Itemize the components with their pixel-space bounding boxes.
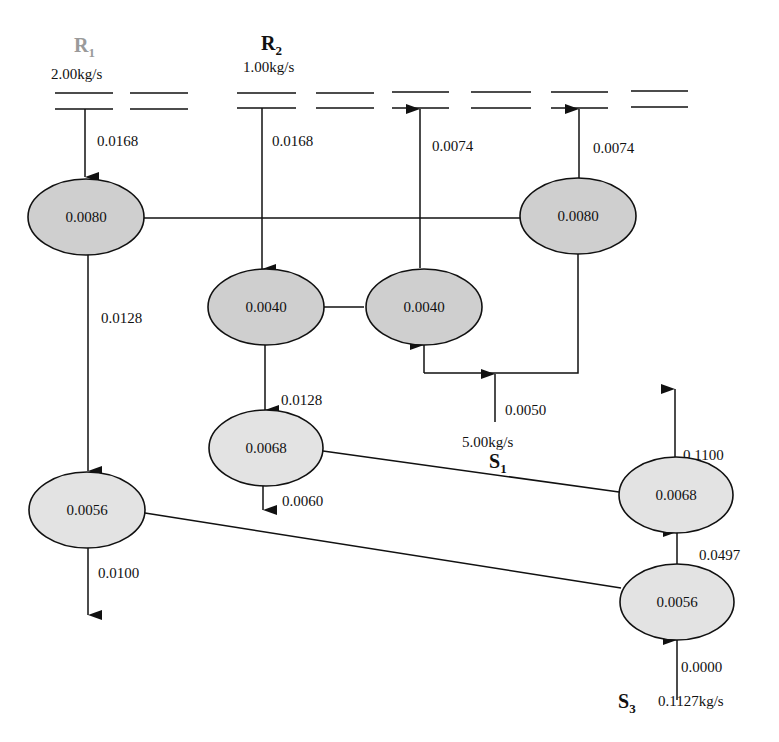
flow-label-n3-n5: 0.0128 xyxy=(281,392,322,408)
svg-text:0.0040: 0.0040 xyxy=(245,299,286,315)
node-n5[interactable]: 0.0068 xyxy=(209,410,323,486)
node-n7[interactable]: 0.0068 xyxy=(619,457,733,533)
svg-text:0.0056: 0.0056 xyxy=(66,502,108,518)
source-s3-flow: 0.1127kg/s xyxy=(658,693,724,709)
flow-label-n6-out: 0.0100 xyxy=(98,565,139,581)
flow-label-n2-header: 0.0074 xyxy=(593,140,635,156)
link-n5-n7 xyxy=(323,451,619,492)
node-n1[interactable]: 0.0080 xyxy=(28,179,144,255)
flow-label-r2-n3: 0.0168 xyxy=(272,133,313,149)
source-r1-label: R1 xyxy=(74,34,95,60)
source-r1-flow: 2.00kg/s xyxy=(51,66,102,82)
node-n2[interactable]: 0.0080 xyxy=(520,178,636,254)
flow-label-s1: 0.0050 xyxy=(505,402,546,418)
svg-text:0.0080: 0.0080 xyxy=(65,209,106,225)
flow-label-n5-out: 0.0060 xyxy=(282,493,323,509)
flow-label-n4-header: 0.0074 xyxy=(432,138,474,154)
svg-text:0.0056: 0.0056 xyxy=(656,594,698,610)
node-n3[interactable]: 0.0040 xyxy=(208,269,324,345)
node-n4[interactable]: 0.0040 xyxy=(366,269,482,345)
flow-label-r1-n1: 0.0168 xyxy=(97,133,138,149)
source-r2-flow: 1.00kg/s xyxy=(243,59,294,75)
svg-text:0.0068: 0.0068 xyxy=(655,487,696,503)
flow-label-n8-n7: 0.0497 xyxy=(699,547,741,563)
source-r2-label: R2 xyxy=(261,32,282,58)
svg-text:0.0068: 0.0068 xyxy=(245,440,286,456)
node-n8[interactable]: 0.0056 xyxy=(620,564,734,640)
source-s3-label: S3 xyxy=(618,690,636,716)
svg-text:0.0080: 0.0080 xyxy=(557,208,598,224)
link-n6-n8 xyxy=(145,513,621,588)
source-s1-label: S1 xyxy=(489,450,507,476)
header-bars xyxy=(55,91,688,109)
source-s1-flow: 5.00kg/s xyxy=(462,434,513,450)
svg-text:0.0040: 0.0040 xyxy=(403,299,444,315)
flow-label-s3: 0.0000 xyxy=(681,659,722,675)
node-n6[interactable]: 0.0056 xyxy=(29,472,145,548)
flow-label-n1-n6: 0.0128 xyxy=(101,310,142,326)
network-diagram: R1 2.00kg/s R2 1.00kg/s 5.00kg/s S1 S3 0… xyxy=(0,0,779,742)
